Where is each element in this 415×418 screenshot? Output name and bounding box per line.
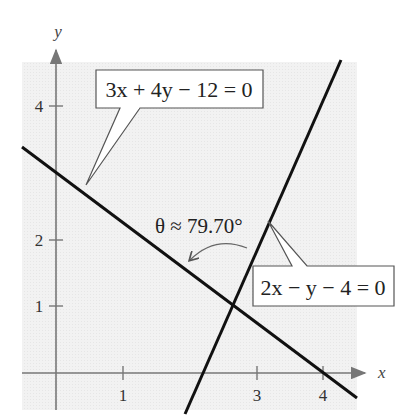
callout-1-text: 3x + 4y − 12 = 0	[105, 77, 252, 102]
y-tick-4: 4	[35, 97, 44, 116]
angle-label: θ ≈ 79.70°	[155, 214, 243, 238]
x-axis-label: x	[377, 363, 386, 382]
y-tick-2: 2	[35, 231, 44, 250]
y-tick-1: 1	[35, 297, 44, 316]
y-axis-label: y	[52, 22, 62, 41]
figure: 1 3 4 x 1 2 4 y θ ≈ 79.70° 3x + 4y − 12 …	[0, 0, 415, 418]
x-tick-4: 4	[319, 386, 328, 405]
callout-2-text: 2x − y − 4 = 0	[260, 275, 385, 300]
x-tick-3: 3	[253, 386, 262, 405]
x-tick-1: 1	[119, 386, 128, 405]
